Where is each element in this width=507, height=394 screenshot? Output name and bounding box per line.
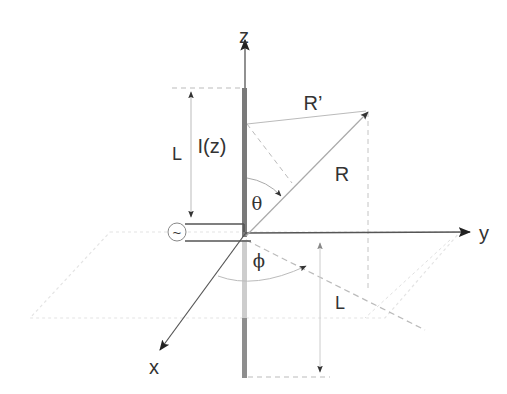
antenna-diagram: ~ z y x I(z) L L R R’ θ ϕ	[0, 0, 507, 394]
source-symbol: ~	[173, 224, 182, 241]
monopole-antenna	[242, 88, 247, 237]
y-axis-label: y	[479, 222, 489, 244]
theta-label: θ	[252, 193, 263, 214]
x-axis[interactable]	[160, 234, 245, 350]
image-antenna-faded	[242, 240, 247, 320]
y-axis[interactable]	[245, 232, 470, 233]
z-axis-label: z	[239, 25, 249, 47]
upper-length-label: L	[172, 144, 182, 164]
current-label: I(z)	[198, 135, 227, 157]
r-vector	[246, 112, 368, 236]
x-axis-label: x	[149, 356, 159, 378]
ac-voltage-source-icon: ~	[168, 223, 186, 241]
phi-projection-line	[246, 240, 425, 330]
theta-perpendicular	[247, 124, 292, 183]
phi-label: ϕ	[253, 250, 265, 271]
diagram-svg: ~ z y x I(z) L L R R’ θ ϕ	[0, 0, 507, 394]
lower-length-label: L	[335, 293, 345, 313]
r-label: R	[335, 163, 349, 185]
image-antenna	[242, 318, 247, 378]
r-prime-label: R’	[304, 92, 323, 114]
ground-diagonal	[365, 240, 450, 318]
